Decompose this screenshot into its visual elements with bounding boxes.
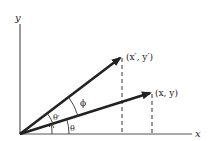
- y-axis-label: y: [14, 12, 21, 23]
- theta-prime-label: θ′: [53, 113, 60, 122]
- diagram-svg: y x (x′, y′) (x, y) ϕ θ′ θ: [0, 0, 209, 141]
- rotated-point-label: (x′, y′): [126, 52, 153, 62]
- original-point-label: (x, y): [155, 88, 178, 98]
- vector-rotated: [20, 58, 120, 134]
- angle-arc-theta-small: [51, 124, 52, 134]
- rotation-diagram: y x (x′, y′) (x, y) ϕ θ′ θ: [0, 0, 209, 141]
- angle-arc-phi: [69, 97, 79, 116]
- x-axis-label: x: [195, 128, 201, 139]
- angle-arc-theta: [67, 119, 69, 134]
- theta-label: θ: [70, 124, 75, 133]
- phi-label: ϕ: [80, 98, 86, 108]
